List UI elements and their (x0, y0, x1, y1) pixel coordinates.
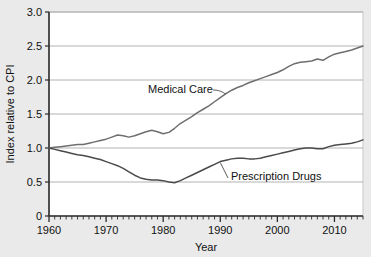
x-tick-label: 1990 (208, 224, 232, 236)
x-tick-label: 2010 (322, 224, 346, 236)
y-tick-label: 0.5 (27, 176, 42, 188)
y-tick-label: 0 (36, 210, 42, 222)
x-tick-label: 1980 (151, 224, 175, 236)
x-tick-label: 2000 (265, 224, 289, 236)
x-axis-title: Year (195, 241, 218, 253)
line-chart: 00.51.01.52.02.53.0 19601970198019902000… (0, 0, 371, 257)
y-axis-title: Index relative to CPI (4, 64, 16, 163)
y-tick-label: 1.0 (27, 142, 42, 154)
y-tick-label: 2.0 (27, 74, 42, 86)
figure-container: 00.51.01.52.02.53.0 19601970198019902000… (0, 0, 371, 257)
series-label-prescription-drugs: Prescription Drugs (231, 170, 322, 182)
y-tick-label: 2.5 (27, 40, 42, 52)
x-tick-label: 1970 (94, 224, 118, 236)
x-tick-label: 1960 (37, 224, 61, 236)
series-label-medical-care: Medical Care (148, 83, 213, 95)
y-tick-label: 1.5 (27, 108, 42, 120)
y-tick-label: 3.0 (27, 6, 42, 18)
